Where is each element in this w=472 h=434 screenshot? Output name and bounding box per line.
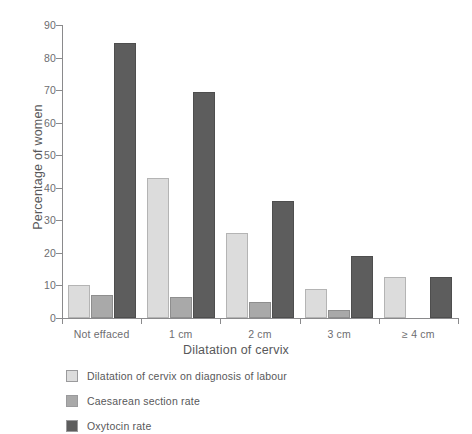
- x-tick: [458, 318, 459, 324]
- bar: [249, 302, 271, 318]
- y-tick-label-wrap: 50: [20, 150, 56, 160]
- bar: [170, 297, 192, 318]
- y-tick: [56, 58, 62, 59]
- legend-item: Dilatation of cervix on diagnosis of lab…: [66, 366, 287, 386]
- y-tick: [56, 220, 62, 221]
- y-tick-label-wrap: 0: [20, 313, 56, 323]
- bar: [272, 201, 294, 318]
- x-axis-line: [62, 318, 458, 319]
- y-tick-label: 50: [26, 150, 56, 160]
- y-axis-line: [62, 25, 63, 319]
- y-tick: [56, 253, 62, 254]
- y-tick-label-wrap: 10: [20, 280, 56, 290]
- y-tick: [56, 90, 62, 91]
- bar: [91, 295, 113, 318]
- legend-label: Caesarean section rate: [87, 395, 200, 407]
- x-tick: [62, 318, 63, 324]
- x-tick: [141, 318, 142, 324]
- legend-swatch: [66, 395, 78, 407]
- bar: [351, 256, 373, 318]
- y-tick: [56, 25, 62, 26]
- bar-chart: Percentage of women 0102030405060708090 …: [0, 0, 472, 434]
- y-tick-label: 10: [26, 280, 56, 290]
- bar: [147, 178, 169, 318]
- y-tick-label: 90: [26, 20, 56, 30]
- y-tick: [56, 285, 62, 286]
- bar: [328, 310, 350, 318]
- bar: [305, 289, 327, 318]
- chart-legend: Dilatation of cervix on diagnosis of lab…: [66, 366, 287, 434]
- bar: [68, 285, 90, 318]
- bar: [226, 233, 248, 318]
- legend-item: Caesarean section rate: [66, 391, 287, 411]
- legend-item: Oxytocin rate: [66, 416, 287, 434]
- x-tick-label: ≥ 4 cm: [379, 328, 458, 340]
- y-tick-label: 0: [26, 313, 56, 323]
- legend-label: Dilatation of cervix on diagnosis of lab…: [87, 370, 287, 382]
- x-tick-label: 3 cm: [300, 328, 379, 340]
- legend-label: Oxytocin rate: [87, 420, 151, 432]
- y-tick-label-wrap: 30: [20, 215, 56, 225]
- x-tick-label: 2 cm: [220, 328, 299, 340]
- y-tick-label: 30: [26, 215, 56, 225]
- x-tick: [300, 318, 301, 324]
- x-tick: [379, 318, 380, 324]
- legend-swatch: [66, 420, 78, 432]
- y-tick-label: 20: [26, 248, 56, 258]
- y-tick-label-wrap: 80: [20, 53, 56, 63]
- y-tick-label-wrap: 70: [20, 85, 56, 95]
- x-tick-label: 1 cm: [141, 328, 220, 340]
- bar: [193, 92, 215, 318]
- y-tick-label-wrap: 20: [20, 248, 56, 258]
- y-tick-label-wrap: 40: [20, 183, 56, 193]
- x-axis-title: Dilatation of cervix: [0, 343, 472, 357]
- y-tick-label: 70: [26, 85, 56, 95]
- bar: [430, 277, 452, 318]
- y-axis-title: Percentage of women: [31, 67, 45, 267]
- y-tick-label: 40: [26, 183, 56, 193]
- y-tick: [56, 123, 62, 124]
- legend-swatch: [66, 370, 78, 382]
- y-tick-label: 80: [26, 53, 56, 63]
- y-tick-label: 60: [26, 118, 56, 128]
- bar: [114, 43, 136, 318]
- bar: [384, 277, 406, 318]
- y-tick: [56, 155, 62, 156]
- x-tick: [220, 318, 221, 324]
- y-tick-label-wrap: 90: [20, 20, 56, 30]
- y-tick-label-wrap: 60: [20, 118, 56, 128]
- y-tick: [56, 188, 62, 189]
- x-tick-label: Not effaced: [62, 328, 141, 340]
